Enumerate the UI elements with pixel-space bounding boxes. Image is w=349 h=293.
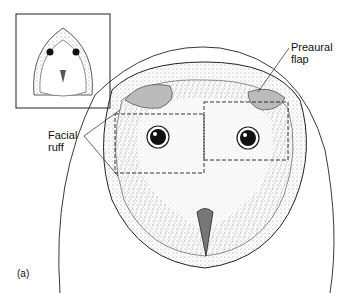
- left-eye: [147, 126, 169, 148]
- label-line: Facial: [48, 129, 77, 141]
- right-eye: [237, 127, 259, 149]
- label-preaural-flap: Preaural flap: [291, 41, 333, 65]
- label-line: ruff: [48, 141, 77, 153]
- label-line: Preaural: [291, 41, 333, 53]
- label-line: flap: [291, 53, 333, 65]
- panel-label: (a): [17, 268, 29, 280]
- label-facial-ruff: Facial ruff: [48, 129, 77, 153]
